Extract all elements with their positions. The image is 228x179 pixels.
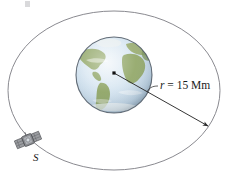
orbit-figure: r = 15 Mm S: [0, 0, 228, 179]
earth-center-dot: [112, 71, 115, 74]
satellite-icon: [13, 127, 42, 149]
radius-value: 15 Mm: [177, 79, 211, 91]
satellite-label: S: [33, 152, 39, 163]
radius-label: r = 15 Mm: [160, 80, 210, 92]
radius-equals: =: [164, 79, 176, 91]
earth-globe: [76, 37, 153, 113]
